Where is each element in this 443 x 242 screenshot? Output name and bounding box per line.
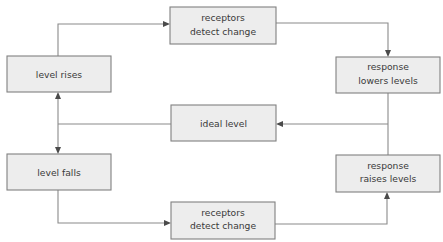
connector-right-spine-to-ideal-level — [276, 121, 388, 127]
node-label-line1: receptors — [201, 12, 245, 23]
node-label-line1: response — [367, 61, 409, 72]
connector-left-vertical-double-arrow — [55, 92, 61, 154]
node-label-line1: receptors — [201, 207, 245, 218]
connector-receptors-bottom-to-response-raises — [275, 192, 390, 224]
node-label-line2: raises levels — [360, 173, 417, 184]
connector-line — [275, 196, 387, 224]
node-response-lowers-levels[interactable]: response lowers levels — [336, 57, 440, 93]
arrow-head-icon — [55, 92, 61, 99]
node-level-rises[interactable]: level rises — [7, 56, 111, 92]
connector-receptors-top-to-response-lowers — [276, 23, 391, 57]
node-receptors-detect-change-top[interactable]: receptors detect change — [170, 7, 276, 44]
node-label-line1: response — [367, 160, 409, 171]
arrow-head-icon — [276, 121, 283, 127]
node-label-line2: detect change — [190, 26, 256, 37]
connector-line — [276, 23, 388, 53]
connector-line — [58, 190, 167, 223]
arrow-head-icon — [55, 147, 61, 154]
node-label-line1: level falls — [37, 167, 81, 178]
node-label-line1: level rises — [36, 69, 83, 80]
arrow-head-icon — [164, 220, 171, 226]
node-response-raises-levels[interactable]: response raises levels — [336, 155, 440, 192]
node-receptors-detect-change-bottom[interactable]: receptors detect change — [171, 202, 275, 239]
feedback-loop-diagram: receptors detect change level rises resp… — [0, 0, 443, 242]
arrow-head-icon — [384, 192, 390, 199]
diagram-canvas: receptors detect change level rises resp… — [0, 0, 443, 242]
node-ideal-level[interactable]: ideal level — [171, 105, 276, 141]
connector-level-rises-to-receptors-top — [58, 21, 170, 56]
node-label-line2: detect change — [190, 220, 256, 231]
node-label-line1: ideal level — [200, 118, 247, 129]
connector-level-falls-to-receptors-bottom — [58, 190, 171, 226]
node-label-line2: lowers levels — [358, 75, 418, 86]
arrow-head-icon — [385, 50, 391, 57]
connector-line — [58, 24, 166, 56]
arrow-head-icon — [163, 21, 170, 27]
node-level-falls[interactable]: level falls — [7, 154, 111, 190]
